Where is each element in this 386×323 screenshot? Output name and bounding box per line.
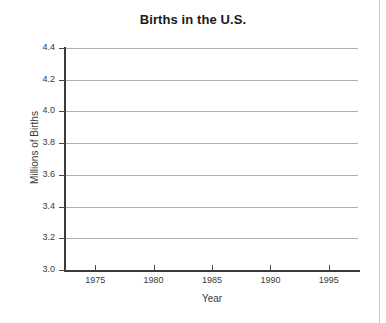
gridline — [66, 175, 358, 176]
plot-area — [66, 48, 358, 270]
y-axis-tick — [59, 48, 65, 49]
x-axis-tick — [270, 265, 271, 271]
y-axis-tick — [59, 143, 65, 144]
gridline — [66, 111, 358, 112]
gridline — [66, 207, 358, 208]
y-axis-tick — [59, 238, 65, 239]
x-axis-tick-label: 1980 — [134, 276, 174, 285]
chart-title: Births in the U.S. — [0, 12, 386, 27]
x-axis-tick-label: 1975 — [75, 276, 115, 285]
gridline — [66, 143, 358, 144]
chart-figure: Births in the U.S. 3.03.23.43.63.84.04.2… — [0, 0, 386, 323]
y-axis-tick — [59, 270, 65, 271]
x-axis-tick — [329, 265, 330, 271]
x-axis-tick-label: 1985 — [192, 276, 232, 285]
y-axis-title: Millions of Births — [29, 68, 40, 228]
y-axis-tick-label: 3.0 — [29, 265, 55, 274]
x-axis-tick-label: 1990 — [250, 276, 290, 285]
y-axis-tick — [59, 111, 65, 112]
x-axis-tick-label: 1995 — [309, 276, 349, 285]
gridline — [66, 48, 358, 49]
y-axis-tick — [59, 80, 65, 81]
x-axis-tick — [154, 265, 155, 271]
gridline — [66, 238, 358, 239]
x-axis-tick — [212, 265, 213, 271]
x-axis-tick — [95, 265, 96, 271]
y-axis-tick-label: 3.2 — [29, 233, 55, 242]
gridline — [66, 80, 358, 81]
y-axis-tick — [59, 175, 65, 176]
y-axis-tick — [59, 207, 65, 208]
x-axis-title: Year — [66, 293, 358, 304]
y-axis-tick-label: 4.4 — [29, 43, 55, 52]
plot-canvas — [66, 48, 358, 270]
